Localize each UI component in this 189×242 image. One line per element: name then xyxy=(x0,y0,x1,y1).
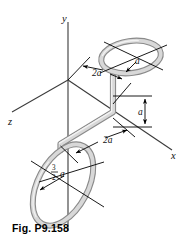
x-axis-line xyxy=(68,80,172,150)
vertical-drop-label: a xyxy=(138,107,143,117)
figure-container: a 3 2 a 2a xyxy=(0,0,189,242)
upper-ring xyxy=(99,37,163,77)
z-axis-label: z xyxy=(7,116,12,127)
lower-radius-numerator: 3 xyxy=(52,164,56,172)
lower-offset-label: 2a xyxy=(103,135,113,145)
upper-offset-ext-left xyxy=(68,57,90,80)
x-axis-label: x xyxy=(170,150,176,161)
wire-assembly-diagram: a 3 2 a 2a xyxy=(0,0,189,242)
lower-radius-symbol: a xyxy=(60,169,65,179)
y-axis-label: y xyxy=(61,13,67,24)
upper-radius-label: a xyxy=(135,56,140,66)
upper-offset-label: 2a xyxy=(92,68,102,78)
figure-caption: Fig. P9.158 xyxy=(12,222,69,234)
vertical-drop-dimension: a xyxy=(113,96,152,127)
lower-radius-denominator: 2 xyxy=(52,174,56,182)
z-axis-line xyxy=(12,80,68,112)
tube-highlight-layer xyxy=(59,77,111,143)
lower-ring xyxy=(20,134,105,235)
